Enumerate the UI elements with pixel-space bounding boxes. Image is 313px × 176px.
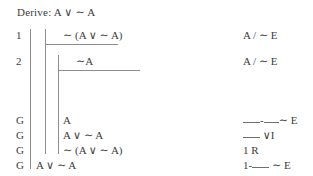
goal-marker-row-6: G — [16, 159, 24, 171]
formula-line-2[interactable]: ∼A — [76, 55, 93, 68]
formula-row-3[interactable]: A — [63, 114, 71, 126]
justification-line-2[interactable]: A / ∼ E — [243, 55, 278, 68]
line-number-1: 1 — [16, 29, 22, 41]
justification-rule-neg-elim: ∼ E — [279, 114, 298, 126]
justification-row-5[interactable]: 1 R — [243, 144, 259, 156]
formula-line-1[interactable]: ∼ (A ∨ ∼ A) — [63, 29, 123, 42]
scope-bar-outer — [30, 29, 31, 169]
scope-bar-assumption-1 — [45, 29, 46, 154]
justification-rule-disj-intro: ∨I — [263, 129, 275, 141]
formula-row-6[interactable]: A ∨ ∼ A — [36, 159, 76, 172]
justification-row-4[interactable]: ∨I — [243, 129, 274, 142]
formula-row-4[interactable]: A ∨ ∼ A — [63, 129, 103, 142]
formula-row-5[interactable]: ∼ (A ∨ ∼ A) — [63, 144, 123, 157]
justification-blank-c[interactable] — [243, 137, 260, 138]
justification-row-6[interactable]: 1- ∼ E — [243, 159, 291, 172]
justification-dash: - — [260, 114, 264, 126]
assumption-rule-line-2 — [58, 70, 140, 71]
goal-marker-row-5: G — [16, 144, 24, 156]
justification-line-ref: 1- — [243, 159, 252, 171]
goal-marker-row-3: G — [16, 114, 24, 126]
assumption-rule-line-1 — [45, 44, 118, 45]
line-number-2: 2 — [16, 55, 22, 67]
goal-marker-row-4: G — [16, 129, 24, 141]
justification-row-3[interactable]: -∼ E — [243, 114, 297, 127]
justification-blank-b[interactable] — [264, 122, 279, 123]
justification-blank-a[interactable] — [243, 122, 260, 123]
justification-blank-d[interactable] — [252, 167, 269, 168]
justification-rule-neg-elim-final: ∼ E — [272, 159, 291, 171]
proof-table: 1 ∼ (A ∨ ∼ A) A / ∼ E 2 ∼A A / ∼ E G A -… — [0, 0, 313, 176]
justification-line-1[interactable]: A / ∼ E — [243, 29, 278, 42]
